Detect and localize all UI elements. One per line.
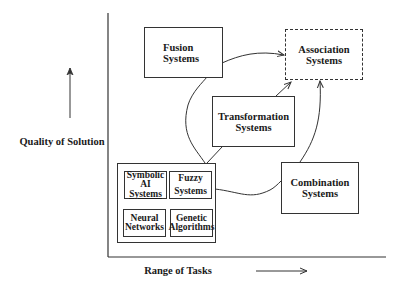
genetic-algorithms-box: Genetic Algorithms: [170, 209, 213, 237]
fusion-line1: Fusion: [163, 42, 193, 53]
transformation-line1: Transformation: [218, 111, 289, 122]
x-axis-label: Range of Tasks: [138, 265, 218, 276]
neural-networks-box: Neural Networks: [123, 209, 166, 237]
edge-transformation-to-association: [276, 82, 291, 96]
fusion-systems-box: Fusion Systems: [144, 27, 223, 78]
association-line2: Systems: [306, 55, 342, 66]
edge-base-to-fusion: [186, 77, 207, 163]
fuzzy-line1: Fuzzy: [178, 174, 202, 184]
transformation-line2: Systems: [235, 122, 271, 133]
edge-fusion-to-association: [222, 53, 284, 63]
association-line1: Association: [298, 44, 349, 55]
edge-base-to-combination: [215, 181, 281, 195]
combination-line2: Systems: [302, 188, 338, 199]
association-systems-box: Association Systems: [285, 29, 363, 80]
fusion-line2: Systems: [163, 53, 199, 64]
y-axis-label: Quality of Solution: [14, 136, 110, 147]
edge-combination-to-association: [300, 81, 320, 162]
symbolic-ai-systems-box: Symbolic AI Systems: [124, 171, 167, 199]
fuzzy-line2: Systems: [174, 187, 207, 197]
fuzzy-systems-box: Fuzzy Systems: [169, 171, 212, 199]
neural-line2: Networks: [125, 223, 164, 233]
combination-systems-box: Combination Systems: [281, 162, 359, 214]
symbolic-line3: Systems: [129, 190, 162, 200]
genetic-line2: Algorithms: [169, 223, 215, 233]
transformation-systems-box: Transformation Systems: [212, 96, 295, 147]
combination-line1: Combination: [291, 177, 350, 188]
edge-base-to-transformation: [207, 147, 222, 163]
